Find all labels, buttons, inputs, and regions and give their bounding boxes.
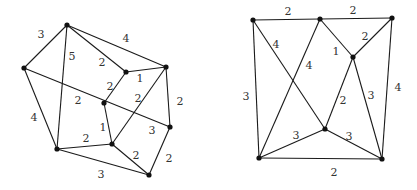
edge-weight-label: 4 [31,111,38,124]
edge-weight-label: 2 [177,95,184,108]
edge-weight-label: 5 [69,50,76,63]
edge-weight-label: 2 [107,80,114,93]
vertex-F [167,124,172,129]
edge-B-H [24,68,57,149]
vertex-Q [317,16,322,21]
vertex-B [21,65,26,70]
edge-C-D [126,67,166,72]
right-weighted-graph: 2234412423332 [243,4,402,179]
edge-weight-label: 2 [285,5,292,18]
edge-weight-label: 2 [340,94,347,107]
edge-weight-label: 2 [331,166,338,179]
edge-T-V [325,129,382,159]
edge-weight-label: 2 [133,149,140,162]
edge-A-H [57,25,67,149]
edge-weight-label: 2 [75,94,82,107]
vertex-R [389,15,394,20]
edge-weight-label: 1 [100,121,107,134]
vertex-S [350,54,355,59]
edge-weight-label: 3 [346,130,353,143]
edge-R-S [353,18,392,57]
vertex-D [163,64,168,69]
vertex-T [322,126,327,131]
edge-weight-label: 3 [368,89,375,102]
vertex-G [109,141,114,146]
edge-weight-label: 2 [99,56,106,69]
edge-weight-label: 2 [350,4,357,17]
edge-weight-label: 2 [362,30,369,43]
edge-Q-U [259,19,320,158]
edge-weight-label: 2 [83,132,90,145]
left-weighted-graph: 3425122224122233 [21,22,183,180]
edge-Q-R [320,18,392,19]
edge-A-C [67,25,126,72]
vertex-E [101,100,106,105]
edge-weight-label: 3 [293,129,300,142]
vertex-A [64,22,69,27]
edge-weight-label: 1 [137,72,144,85]
edge-weight-label: 4 [123,32,130,45]
edge-P-Q [253,19,320,20]
weighted-graphs-figure: 3425122224122233 2234412423332 [0,0,417,190]
edge-weight-label: 3 [149,124,156,137]
edge-P-T [253,20,325,129]
edge-U-V [259,158,382,159]
vertex-C [123,69,128,74]
edge-weight-label: 3 [243,90,250,103]
edge-weight-label: 4 [306,59,313,72]
edge-weight-label: 2 [135,92,142,105]
edge-A-B [24,25,67,68]
edge-R-V [382,18,392,159]
edge-B-F [24,68,170,127]
vertex-I [146,172,151,177]
vertex-P [250,17,255,22]
vertex-U [256,155,261,160]
edge-A-D [67,25,166,67]
edge-weight-label: 3 [38,28,45,41]
edge-weight-label: 3 [98,168,105,181]
edge-G-I [112,144,149,175]
edge-weight-label: 2 [166,152,173,165]
vertex-H [54,146,59,151]
edge-D-F [166,67,170,127]
vertex-V [379,156,384,161]
edge-P-U [253,20,259,158]
edge-weight-label: 1 [333,45,340,58]
edge-weight-label: 4 [273,38,280,51]
edge-weight-label: 4 [395,81,402,94]
edge-G-H [57,144,112,149]
edge-S-V [353,57,382,159]
